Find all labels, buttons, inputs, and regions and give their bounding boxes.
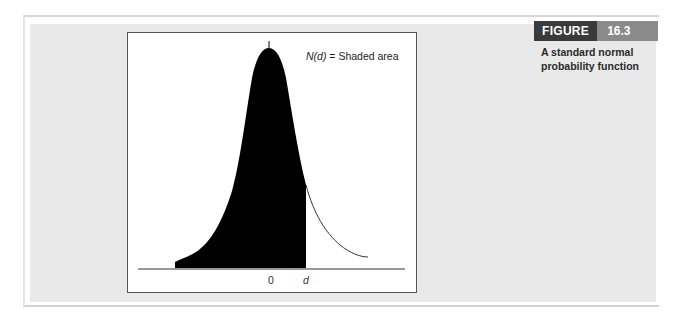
figure-label: FIGURE — [534, 21, 597, 41]
right-tail-curve — [306, 185, 368, 257]
shaded-area-annotation: N(d) = Shaded area — [306, 50, 399, 62]
shaded-area — [175, 48, 306, 268]
figure-number: 16.3 — [597, 21, 658, 41]
annotation-text: = Shaded area — [326, 50, 398, 62]
figure-caption: A standard normal probability function — [541, 45, 661, 73]
x-tick-d: d — [303, 274, 309, 286]
annotation-function: N(d) — [306, 50, 326, 62]
x-tick-zero: 0 — [268, 274, 274, 286]
chart-area: N(d) = Shaded area 0 d — [127, 32, 417, 293]
normal-curve-plot — [128, 33, 418, 294]
figure-badge: FIGURE 16.3 — [534, 21, 658, 41]
